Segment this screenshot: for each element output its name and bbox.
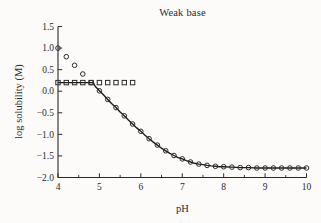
y-tick-label: 1.5 — [42, 22, 54, 32]
y-tick-label: 0.5 — [42, 65, 54, 75]
x-tick-label: 10 — [302, 182, 312, 192]
x-tick-label: 7 — [180, 182, 185, 192]
circle-marker-series — [56, 46, 309, 171]
x-tick-label: 5 — [97, 182, 102, 192]
square-marker — [114, 80, 118, 84]
solubility-model-line — [58, 83, 307, 168]
circle-marker — [72, 63, 77, 68]
x-tick-label: 4 — [56, 182, 61, 192]
circle-marker — [64, 54, 69, 59]
x-tick-label: 8 — [221, 182, 226, 192]
y-tick-label: 0.0 — [42, 86, 54, 96]
square-marker — [97, 80, 101, 84]
y-tick-label: −0.5 — [37, 108, 54, 118]
x-tick-label: 6 — [138, 182, 143, 192]
solubility-vs-ph-figure: Weak base 456789101.51.00.50.0−0.5−1.0−1… — [0, 0, 321, 223]
y-tick-label: −2.0 — [37, 173, 54, 183]
x-tick-label: 9 — [263, 182, 268, 192]
y-axis-label: log solubility (M) — [13, 47, 24, 157]
square-marker — [106, 80, 110, 84]
model-line-series — [58, 83, 307, 168]
x-axis-label: pH — [58, 203, 307, 214]
axes: 456789101.51.00.50.0−0.5−1.0−1.5−2.0 — [37, 22, 312, 192]
square-marker — [122, 80, 126, 84]
y-tick-label: −1.0 — [37, 130, 54, 140]
y-tick-label: 1.0 — [42, 43, 54, 53]
y-tick-label: −1.5 — [37, 151, 54, 161]
circle-marker — [81, 72, 86, 77]
plot-area: 456789101.51.00.50.0−0.5−1.0−1.5−2.0 — [0, 0, 321, 223]
square-marker — [130, 80, 134, 84]
